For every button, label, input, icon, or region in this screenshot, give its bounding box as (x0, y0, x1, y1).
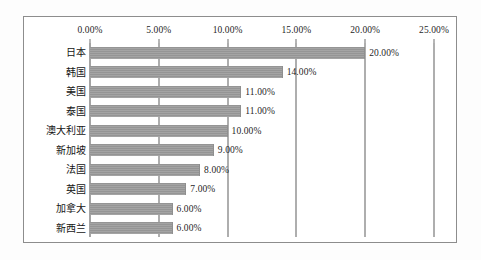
bar (90, 66, 283, 78)
bar (90, 164, 200, 176)
x-tick-mark (90, 39, 91, 43)
bar-row: 泰国11.00% (24, 102, 458, 122)
x-tick-mark (434, 39, 435, 43)
bar (90, 203, 173, 215)
x-tick-mark (227, 39, 228, 43)
bar (90, 125, 228, 137)
bar-value-label: 11.00% (245, 86, 275, 98)
category-label: 英国 (24, 180, 86, 200)
category-label: 加拿大 (24, 199, 86, 219)
x-tick-label: 5.00% (146, 23, 171, 37)
bar-row: 新加坡9.00% (24, 141, 458, 161)
x-axis-tick-labels: 0.00%5.00%10.00%15.00%20.00%25.00% (24, 23, 458, 39)
category-label: 新西兰 (24, 219, 86, 239)
bar-row: 澳大利亚10.00% (24, 121, 458, 141)
x-tick-mark (158, 39, 159, 43)
category-label: 新加坡 (24, 141, 86, 161)
plot-area: 日本20.00%韩国14.00%美国11.00%泰国11.00%澳大利亚10.0… (24, 43, 458, 241)
bar-value-label: 10.00% (232, 125, 262, 137)
bar (90, 222, 173, 234)
category-label: 泰国 (24, 102, 86, 122)
x-tick-label: 25.00% (419, 23, 449, 37)
bar-value-label: 14.00% (287, 66, 317, 78)
bar-value-label: 6.00% (177, 203, 202, 215)
bar-value-label: 20.00% (369, 47, 399, 59)
bar (90, 144, 214, 156)
bar-row: 加拿大6.00% (24, 199, 458, 219)
category-label: 韩国 (24, 63, 86, 83)
x-tick-label: 0.00% (77, 23, 102, 37)
bar (90, 47, 365, 59)
bar-row: 新西兰6.00% (24, 219, 458, 239)
bar-value-label: 7.00% (190, 183, 215, 195)
bar (90, 86, 241, 98)
category-label: 法国 (24, 160, 86, 180)
chart-frame: 0.00%5.00%10.00%15.00%20.00%25.00% 日本20.… (23, 16, 457, 243)
category-label: 美国 (24, 82, 86, 102)
bar-value-label: 8.00% (204, 164, 229, 176)
bar-value-label: 6.00% (177, 222, 202, 234)
x-tick-mark (365, 39, 366, 43)
x-tick-label: 10.00% (213, 23, 243, 37)
bar (90, 183, 186, 195)
bar-value-label: 11.00% (245, 105, 275, 117)
scanned-page: 0.00%5.00%10.00%15.00%20.00%25.00% 日本20.… (0, 0, 481, 260)
category-label: 日本 (24, 43, 86, 63)
bar-row: 英国7.00% (24, 180, 458, 200)
bar-row: 法国8.00% (24, 160, 458, 180)
bar-value-label: 9.00% (218, 144, 243, 156)
x-tick-label: 15.00% (281, 23, 311, 37)
category-label: 澳大利亚 (24, 121, 86, 141)
bar-rows: 日本20.00%韩国14.00%美国11.00%泰国11.00%澳大利亚10.0… (24, 43, 458, 241)
bar-row: 日本20.00% (24, 43, 458, 63)
bar (90, 105, 241, 117)
bar-row: 美国11.00% (24, 82, 458, 102)
x-tick-label: 20.00% (350, 23, 380, 37)
bar-row: 韩国14.00% (24, 63, 458, 83)
x-tick-mark (296, 39, 297, 43)
